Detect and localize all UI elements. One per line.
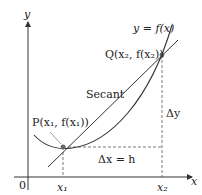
secant-label: Secant	[86, 88, 125, 101]
delta-x-label: Δx = h	[98, 153, 135, 166]
x2-tick-label: x₂	[157, 181, 168, 194]
y-axis-label: y	[23, 8, 31, 21]
point-p	[61, 145, 66, 150]
p-point-label: P(x₁, f(x₁))	[32, 116, 89, 129]
delta-y-label: Δy	[166, 107, 181, 120]
curve-label: y = f(x)	[132, 22, 174, 35]
p-label-pointer	[50, 132, 61, 144]
x-axis-label: x	[191, 175, 198, 188]
q-point-label: Q(x₂, f(x₂))	[105, 48, 163, 61]
x1-tick-label: x₁	[57, 181, 68, 194]
secant-diagram: y x 0 y = f(x) Q(x₂, f(x₂)) Secant P(x₁,…	[0, 0, 202, 195]
curve-f	[34, 25, 172, 149]
origin-label: 0	[19, 179, 26, 192]
